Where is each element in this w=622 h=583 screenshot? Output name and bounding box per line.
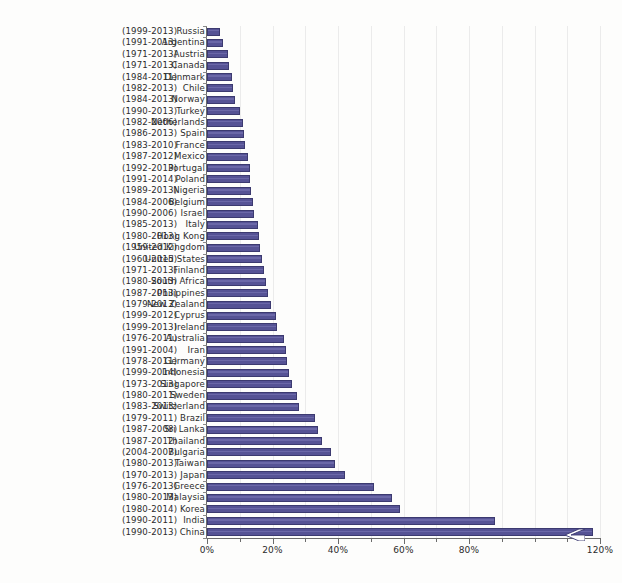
bar-highlight <box>208 383 291 384</box>
category-year-range: (1980-2011) <box>122 390 206 401</box>
category-year-range: (1971-2013) <box>122 49 206 60</box>
bar <box>207 96 235 104</box>
category-year-range: (1986-2013) <box>122 128 206 139</box>
bar <box>207 198 253 206</box>
bar-highlight <box>208 53 227 54</box>
bar-highlight <box>208 360 286 361</box>
category-year-range: (1987-2013) <box>122 288 206 299</box>
bar-highlight <box>208 462 334 463</box>
bar <box>207 392 297 400</box>
category-year-range: (1991-2004) <box>122 345 206 356</box>
bar-highlight <box>208 201 252 202</box>
category-year-range: (1970-2013) <box>122 470 206 481</box>
category-year-range: (1999-2013) <box>122 26 206 37</box>
category-year-range: (1984-2013) <box>122 94 206 105</box>
category-year-range: (1991-2013) <box>122 37 206 48</box>
bar-highlight <box>208 348 285 349</box>
bar-highlight <box>208 314 275 315</box>
bar <box>207 528 593 536</box>
category-year-range: (1980-2013) <box>122 458 206 469</box>
bar <box>207 483 374 491</box>
category-year-range: (1999-2014) <box>122 367 206 378</box>
category-year-range: (1990-2013) <box>122 527 206 538</box>
bar <box>207 244 260 252</box>
bar-highlight <box>208 280 265 281</box>
bar <box>207 153 248 161</box>
category-year-range: (1980-2013) <box>122 231 206 242</box>
category-year-range: (1999-2012) <box>122 310 206 321</box>
bar-highlight <box>208 155 247 156</box>
category-year-range: (1989-2013) <box>122 185 206 196</box>
category-year-range: (1983-2013) <box>122 401 206 412</box>
bar-highlight <box>208 189 250 190</box>
bar-highlight <box>208 166 249 167</box>
bar <box>207 278 266 286</box>
category-year-range: (1983-2010) <box>122 140 206 151</box>
category-year-range: (1990-2013) <box>122 106 206 117</box>
bar-highlight <box>208 519 494 520</box>
category-year-range: (1973-2013) <box>122 379 206 390</box>
bar <box>207 460 335 468</box>
bar-highlight <box>208 394 296 395</box>
bar-highlight <box>208 531 592 532</box>
bar <box>207 210 254 218</box>
category-year-range: (1990-2011) <box>122 515 206 526</box>
category-year-range: (2004-2007) <box>122 447 206 458</box>
category-year-range: (1999-2013) <box>122 322 206 333</box>
bar-highlight <box>208 474 344 475</box>
bar <box>207 266 264 274</box>
bar-highlight <box>208 98 234 99</box>
bar <box>207 426 318 434</box>
category-year-range: (1984-2011) <box>122 72 206 83</box>
bar-highlight <box>208 496 391 497</box>
bar <box>207 232 259 240</box>
category-year-range: (1976-2013) <box>122 481 206 492</box>
x-axis-tick-label: 60% <box>393 545 414 555</box>
bar-highlight <box>208 212 253 213</box>
bar <box>207 255 262 263</box>
category-year-range: (1990-2006) <box>122 208 206 219</box>
x-axis-tick-label: 80% <box>459 545 480 555</box>
x-axis-tick-label: 0% <box>200 545 215 555</box>
category-year-range: (1980-2013) <box>122 492 206 503</box>
bar-highlight <box>208 292 267 293</box>
bar-highlight <box>208 326 276 327</box>
x-axis-tick-label: 40% <box>328 545 349 555</box>
bar-row: China(1990-2013) <box>0 527 622 540</box>
category-year-range: (1980-2013) <box>122 276 206 287</box>
category-year-range: (1987-2012) <box>122 151 206 162</box>
bar-highlight <box>208 269 263 270</box>
category-year-range: (1982-2013) <box>122 83 206 94</box>
bar-highlight <box>208 246 259 247</box>
category-year-range: (1992-2013) <box>122 163 206 174</box>
category-year-range: (1971-2013) <box>122 60 206 71</box>
bar-rows: Russia(1999-2013)Argentina(1991-2013)Aus… <box>0 0 622 583</box>
category-year-range: (1971-2013) <box>122 265 206 276</box>
bar-highlight <box>208 121 242 122</box>
bar <box>207 289 268 297</box>
bar-highlight <box>208 485 373 486</box>
bar <box>207 62 229 70</box>
bar <box>207 312 276 320</box>
category-year-range: (1979-2011) <box>122 413 206 424</box>
category-year-range: (1984-2006) <box>122 197 206 208</box>
bar-highlight <box>208 371 288 372</box>
category-year-range: (1982-2006) <box>122 117 206 128</box>
bar-highlight <box>208 64 228 65</box>
bar <box>207 107 240 115</box>
bar-highlight <box>208 451 330 452</box>
category-year-range: (1976-2011) <box>122 333 206 344</box>
category-year-range: (1959-2012) <box>122 242 206 253</box>
category-year-range: (1991-2014) <box>122 174 206 185</box>
bar <box>207 471 345 479</box>
bar <box>207 357 287 365</box>
bar-highlight <box>208 428 317 429</box>
bar <box>207 505 400 513</box>
bar-highlight <box>208 110 239 111</box>
bar-highlight <box>208 178 249 179</box>
bar-highlight <box>208 30 219 31</box>
bar <box>207 403 299 411</box>
bar <box>207 164 250 172</box>
category-year-range: (1987-2012) <box>122 436 206 447</box>
bar <box>207 28 220 36</box>
